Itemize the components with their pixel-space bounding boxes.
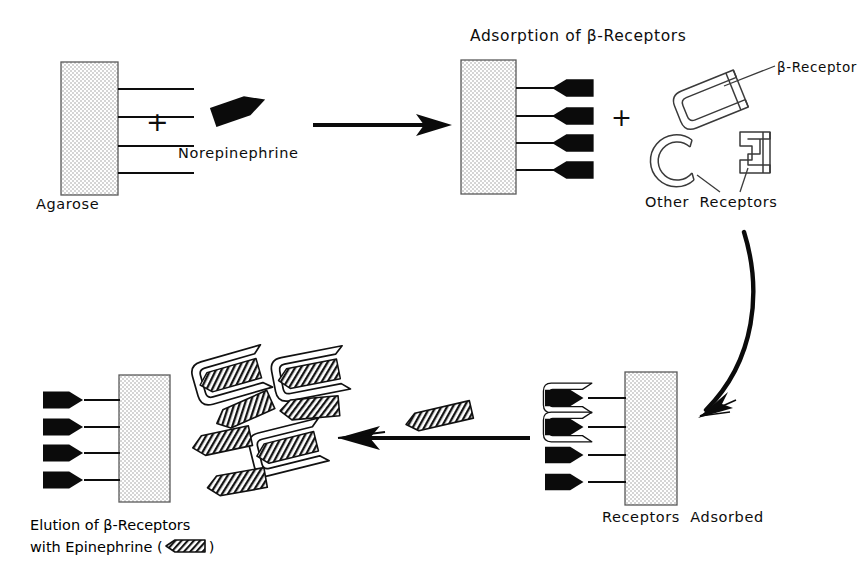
agarose-block-bottom-left (119, 375, 170, 502)
elution-caption-prefix: with Epinephrine ( (30, 539, 163, 555)
label-norepinephrine: Norepinephrine (178, 144, 299, 164)
arrow-curved-step2-to-step3 (698, 232, 753, 418)
plus-sign-2: + (611, 101, 633, 135)
unbound-norepinephrine-wedge-1 (545, 447, 583, 463)
free-epinephrine-wedge-4 (206, 468, 268, 498)
epinephrine-wedge-on-arrow (404, 401, 473, 434)
plus-sign-1: + (146, 104, 169, 140)
elution-caption-suffix: ) (209, 539, 215, 555)
epinephrine-receptor-complex-2 (269, 346, 350, 403)
adsorbed-receptor-complex-2 (543, 412, 591, 442)
elution-caption-line-2: with Epinephrine () (30, 536, 214, 560)
eluted-column-wedges (43, 392, 83, 489)
epinephrine-legend-icon (164, 538, 208, 560)
arrow-step3-to-step4 (338, 426, 530, 450)
agarose-block-bottom-right (625, 372, 677, 505)
unbound-norepinephrine-wedge-2 (545, 474, 583, 490)
elution-caption: Elution of β-Receptors with Epinephrine … (30, 514, 214, 561)
step-4-group (43, 345, 350, 502)
other-receptor-square-bracket (740, 132, 770, 173)
agarose-block-top-right (461, 60, 516, 194)
free-epinephrine-wedge-3 (191, 426, 253, 458)
adsorbed-receptor-complex-1 (543, 383, 591, 413)
beta-receptor-shape (670, 70, 748, 133)
label-receptors-adsorbed: Receptors Adsorbed (602, 508, 764, 528)
label-beta-receptor: β-Receptor (777, 58, 857, 76)
label-other-receptors: Other Receptors (645, 193, 778, 213)
figure-canvas: Agarose + Norepinephrine Adsorption of β… (0, 0, 867, 588)
agarose-arms-top-right (516, 88, 554, 170)
agarose-block-top-left (61, 62, 118, 195)
step-3-group (543, 372, 677, 505)
diagram-vector-layer (0, 0, 867, 588)
agarose-arms-bottom-left (84, 400, 120, 480)
label-agarose: Agarose (36, 195, 99, 215)
other-receptor-c-arc (650, 135, 694, 187)
immobilized-norepinephrine-wedges (552, 79, 594, 179)
label-adsorption-title: Adsorption of β-Receptors (470, 26, 686, 47)
other-receptor-arc-leader (697, 175, 720, 192)
agarose-arms-bottom-right (588, 398, 626, 482)
elution-caption-line-1: Elution of β-Receptors (30, 514, 214, 536)
norepinephrine-wedge (210, 90, 269, 127)
arrow-step1-to-step2 (313, 114, 452, 136)
